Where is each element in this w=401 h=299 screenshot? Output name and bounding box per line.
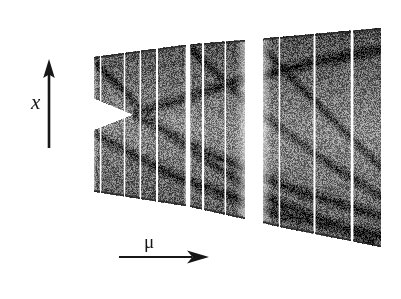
right-arrow-icon xyxy=(118,246,210,266)
bifurcation-figure: x μ xyxy=(0,0,401,299)
x-axis-label: μ xyxy=(144,232,154,251)
y-axis-label: x xyxy=(31,92,40,113)
up-arrow-icon xyxy=(40,58,58,150)
